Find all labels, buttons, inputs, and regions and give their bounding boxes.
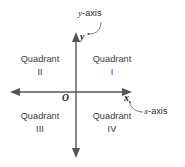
quadrant-label-IV: Quadrant IV xyxy=(80,112,144,134)
quadrant-III-numeral: III xyxy=(8,125,72,134)
quadrant-IV-numeral: IV xyxy=(80,125,144,134)
quadrant-label-II: Quadrant II xyxy=(8,55,72,77)
y-axis-variable-label: y xyxy=(80,32,84,42)
y-axis-callout-label: y-axis xyxy=(78,9,101,18)
x-axis-leader-dot xyxy=(129,101,131,103)
x-axis-callout-label: x-axis xyxy=(144,107,167,116)
y-axis-leader-line xyxy=(89,22,101,34)
x-axis-callout-suffix: -axis xyxy=(148,106,167,116)
y-axis-callout-suffix: -axis xyxy=(82,8,101,18)
axes-graphic xyxy=(0,0,185,167)
quadrant-label-III: Quadrant III xyxy=(8,112,72,134)
y-axis-down-arrowhead xyxy=(72,148,80,158)
x-axis-left-arrowhead xyxy=(10,88,20,96)
x-axis-variable-label: x xyxy=(124,93,129,103)
quadrant-label-I: Quadrant I xyxy=(80,55,144,77)
quadrant-I-word: Quadrant xyxy=(80,55,144,64)
y-axis-up-arrowhead xyxy=(72,32,80,42)
quadrant-II-numeral: II xyxy=(8,68,72,77)
quadrant-III-word: Quadrant xyxy=(8,112,72,121)
y-axis-leader-dot xyxy=(87,33,89,35)
quadrant-II-word: Quadrant xyxy=(8,55,72,64)
origin-label: O xyxy=(62,94,69,104)
coordinate-plane-diagram: Quadrant II Quadrant I Quadrant III Quad… xyxy=(0,0,185,167)
x-axis-leader-line xyxy=(130,103,143,112)
quadrant-IV-word: Quadrant xyxy=(80,112,144,121)
quadrant-I-numeral: I xyxy=(80,68,144,77)
